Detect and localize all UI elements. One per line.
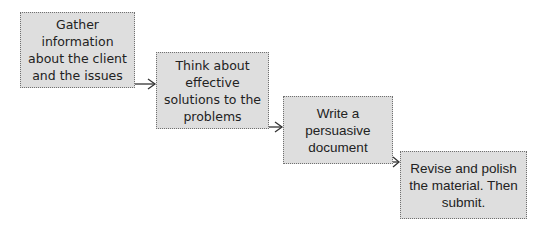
step-box-revise-submit: Revise and polish the material. Then sub…: [400, 151, 527, 219]
step-label: Revise and polish the material. Then sub…: [405, 160, 522, 211]
arrow-step2-to-step3: [269, 122, 282, 132]
step-label: Gather information about the client and …: [25, 16, 130, 84]
arrow-step1-to-step2: [135, 79, 155, 89]
step-label: Think about effective solutions to the p…: [161, 57, 264, 125]
step-label: Write a persuasive document: [288, 105, 388, 156]
step-box-gather-information: Gather information about the client and …: [20, 12, 135, 88]
step-box-think-solutions: Think about effective solutions to the p…: [156, 52, 269, 129]
step-box-write-document: Write a persuasive document: [283, 96, 393, 164]
arrow-step3-to-step4: [393, 157, 399, 167]
